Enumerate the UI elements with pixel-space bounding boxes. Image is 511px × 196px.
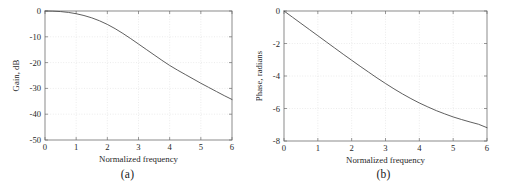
y-tick-label: 0 xyxy=(37,6,41,16)
y-tick-label: -20 xyxy=(30,58,41,68)
x-tick-label: 6 xyxy=(485,143,490,153)
y-tick-label: -30 xyxy=(30,83,41,93)
y-axis-label: Phase, radians xyxy=(256,50,264,101)
x-tick-label: 2 xyxy=(350,143,354,153)
y-tick-label: -40 xyxy=(30,109,41,119)
y-tick-label: -50 xyxy=(30,135,41,145)
x-tick-label: 6 xyxy=(230,142,235,152)
x-tick-label: 0 xyxy=(43,142,47,152)
y-tick-label: -6 xyxy=(273,104,281,114)
x-tick-label: 3 xyxy=(383,143,387,153)
x-axis-label: Normalized frequency xyxy=(346,155,425,165)
subplot-a-caption: (a) xyxy=(0,168,255,180)
x-tick-label: 5 xyxy=(199,142,203,152)
subplot-b-caption: (b) xyxy=(256,168,511,180)
x-tick-label: 4 xyxy=(168,142,173,152)
x-tick-label: 2 xyxy=(105,142,109,152)
x-tick-label: 1 xyxy=(316,143,320,153)
y-tick-label: -8 xyxy=(273,136,280,146)
subplot-a: 0123456-50-40-30-20-100Normalized freque… xyxy=(0,0,255,196)
x-tick-label: 3 xyxy=(136,142,140,152)
gain-plot: 0123456-50-40-30-20-100Normalized freque… xyxy=(0,0,255,165)
y-tick-label: -4 xyxy=(273,71,281,81)
x-axis-label: Normalized frequency xyxy=(99,154,178,164)
x-tick-label: 0 xyxy=(282,143,286,153)
y-tick-label: -2 xyxy=(273,39,280,49)
x-tick-label: 5 xyxy=(451,143,455,153)
y-axis-label: Gain, dB xyxy=(11,59,21,91)
figure-container: 0123456-50-40-30-20-100Normalized freque… xyxy=(0,0,511,196)
x-tick-label: 4 xyxy=(417,143,422,153)
phase-plot: 0123456-8-6-4-20Normalized frequencyPhas… xyxy=(256,0,511,165)
subplot-b: 0123456-8-6-4-20Normalized frequencyPhas… xyxy=(256,0,511,196)
x-tick-label: 1 xyxy=(74,142,78,152)
y-tick-label: 0 xyxy=(276,6,280,16)
y-tick-label: -10 xyxy=(30,32,41,42)
